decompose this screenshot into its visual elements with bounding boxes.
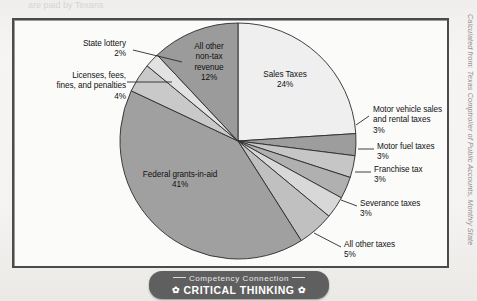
pie-slice-group: [120, 23, 356, 259]
flower-icon-left: ✿: [172, 285, 181, 295]
callout-label-all-other-taxes: All other taxes 5%: [344, 240, 430, 261]
source-credit-text: Calculated from: Texas Comptroller of Pu…: [466, 14, 475, 245]
banner-title: ✿ CRITICAL THINKING ✿: [149, 284, 329, 296]
competency-connection-banner: Competency Connection ✿ CRITICAL THINKIN…: [149, 271, 329, 299]
figure-page: are paid by Texans Sale: [0, 0, 477, 301]
slice-label-federal-grants: Federal grants-in-aid 41%: [120, 170, 240, 191]
banner-subtitle: Competency Connection: [149, 271, 329, 284]
pie-chart: Sales Taxes 24% All other non-tax revenu…: [14, 20, 447, 266]
banner-rule-left: [173, 277, 186, 278]
leader-severance: [341, 200, 357, 206]
callout-label-licenses-fees: Licenses, fees, fines, and penalties 4%: [16, 71, 126, 102]
callout-label-motor-vehicle: Motor vehicle sales and rental taxes 3%: [373, 105, 453, 136]
banner-subtitle-text: Competency Connection: [189, 274, 289, 283]
slice-label-all-other-non-tax: All other non-tax revenue 12%: [182, 42, 236, 83]
slice-label-sales-taxes: Sales Taxes 24%: [240, 70, 330, 91]
banner-title-text: CRITICAL THINKING: [184, 284, 295, 296]
callout-label-motor-fuel: Motor fuel taxes 3%: [377, 142, 453, 163]
callout-label-severance: Severance taxes 3%: [360, 199, 446, 220]
callout-label-state-lottery: State lottery 2%: [22, 39, 126, 60]
flower-icon-right: ✿: [298, 285, 307, 295]
leader-all-other-taxes: [314, 233, 341, 247]
callout-label-franchise: Franchise tax 3%: [374, 165, 450, 186]
leader-motor-vehicle: [356, 116, 369, 125]
chart-frame: Sales Taxes 24% All other non-tax revenu…: [12, 18, 449, 268]
banner-rule-right: [292, 277, 305, 278]
source-credit: Calculated from: Texas Comptroller of Pu…: [464, 14, 476, 284]
ghost-text-top: are paid by Texans: [28, 0, 458, 12]
